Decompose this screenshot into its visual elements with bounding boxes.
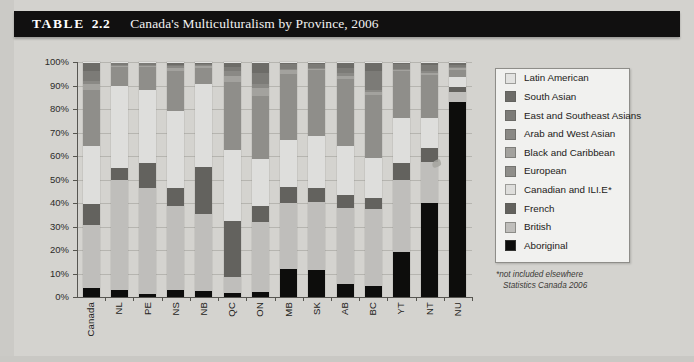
bar-segment [365,71,382,90]
bar-segment [83,146,100,204]
bar-segment [224,221,241,277]
legend-item-label: South Asian [524,92,576,102]
legend-swatch-icon [505,222,516,233]
x-tick-mark [105,297,106,301]
x-tick-mark [472,297,473,301]
bar-segment [308,270,325,297]
y-tick-mark [73,62,77,63]
y-tick-label: 0% [25,292,69,302]
legend-swatch-icon [505,129,516,140]
bar-segment [393,71,410,118]
bar-segment [280,140,297,187]
page-left-edge [0,0,14,362]
bar-segment [83,71,100,80]
legend-swatch-icon [505,184,516,195]
x-tick-label-pe: PE [143,302,153,315]
bar-pe [139,62,156,297]
bar-qc [224,62,241,297]
bar-segment [83,63,100,71]
y-tick-mark [73,227,77,228]
bar-segment [224,82,241,150]
bar-segment [252,159,269,206]
bar-mb [280,62,297,297]
y-tick-label: 70% [25,128,69,138]
bar-segment [167,188,184,207]
legend-item-label: Black and Caribbean [524,148,615,158]
legend-swatch-icon [505,147,516,158]
gridline [77,86,472,87]
bar-segment [139,67,156,90]
x-tick-label-ns: NS [171,302,181,316]
bar-segment [167,111,184,188]
x-tick-label-canada: Canada [86,302,96,336]
gridline [77,156,472,157]
bar-segment [365,95,382,158]
x-tick-label-qc: QC [227,302,237,317]
x-tick-mark [218,297,219,301]
legend-swatch-icon [505,110,516,121]
y-tick-mark [73,297,77,298]
gridline [77,109,472,110]
y-tick-mark [73,274,77,275]
y-tick-label: 20% [25,245,69,255]
legend-item-label: British [524,222,551,232]
bar-segment [449,92,466,102]
bar-segment [195,167,212,214]
bar-segment [252,73,269,85]
legend-item-7[interactable]: French [496,199,629,218]
x-tick-label-sk: SK [312,302,322,315]
bar-segment [308,202,325,270]
x-tick-label-yt: YT [396,302,406,315]
y-tick-mark [73,250,77,251]
legend-item-label: European [524,166,567,176]
y-tick-mark [73,203,77,204]
x-tick-mark [190,297,191,301]
table-number: 2.2 [92,16,110,32]
bar-segment [252,63,269,72]
bar-segment [393,163,410,179]
legend-item-3[interactable]: Arab and West Asian [496,125,629,144]
chart-legend: Latin AmericanSouth AsianEast and Southe… [495,68,630,263]
bar-nt [421,62,438,297]
bar-ab [337,62,354,297]
table-header-bar: TABLE 2.2 Canada's Multiculturalism by P… [14,11,680,37]
bar-segment [252,222,269,292]
y-tick-label: 80% [25,104,69,114]
bar-on [252,62,269,297]
bar-yt [393,62,410,297]
plot-region [77,62,472,297]
bar-segment [421,162,438,202]
bar-segment [280,269,297,297]
x-tick-label-nt: NT [425,302,435,315]
legend-item-9[interactable]: Aboriginal [496,236,629,255]
bar-segment [337,79,354,146]
bar-nu [449,62,466,297]
legend-item-5[interactable]: European [496,162,629,181]
legend-item-6[interactable]: Canadian and ILI.E* [496,181,629,200]
legend-item-4[interactable]: Black and Caribbean [496,143,629,162]
x-tick-mark [275,297,276,301]
bar-segment [195,214,212,292]
bar-bc [365,62,382,297]
bar-segment [393,118,410,163]
legend-item-0[interactable]: Latin American [496,69,629,88]
y-tick-mark [73,109,77,110]
bar-segment [280,74,297,140]
legend-item-1[interactable]: South Asian [496,88,629,107]
bar-segment [308,70,325,136]
legend-item-2[interactable]: East and Southeast Asians [496,106,629,125]
y-tick-mark [73,133,77,134]
bar-segment [111,168,128,180]
bar-segment [111,290,128,297]
y-axis-line [77,62,78,298]
gridline [77,250,472,251]
bar-segment [252,88,269,96]
x-tick-label-ab: AB [340,302,350,315]
x-tick-mark [444,297,445,301]
y-tick-mark [73,86,77,87]
x-tick-mark [162,297,163,301]
x-tick-label-bc: BC [368,302,378,316]
bar-segment [280,187,297,203]
bar-segment [111,86,128,168]
legend-item-8[interactable]: British [496,218,629,237]
